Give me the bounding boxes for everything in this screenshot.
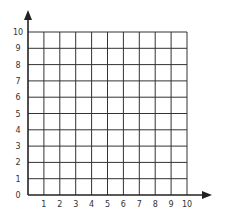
y-axis-arrow-icon [24, 10, 32, 20]
x-axis-label: 1 [41, 200, 46, 209]
y-axis-label: 4 [15, 126, 20, 135]
y-axis-label: 3 [15, 142, 20, 151]
grid-lines [28, 32, 187, 195]
x-axis-arrow-icon [202, 191, 212, 199]
y-axis-label: 5 [15, 110, 20, 119]
axes [24, 10, 212, 199]
x-axis-label: 8 [153, 200, 158, 209]
x-axis-label: 7 [137, 200, 142, 209]
y-axis-label: 1 [15, 175, 20, 184]
y-axis-label: 2 [15, 158, 20, 167]
x-axis-label: 5 [105, 200, 110, 209]
x-axis-label: 2 [57, 200, 62, 209]
x-axis-label: 4 [89, 200, 94, 209]
x-axis-label: 10 [182, 200, 192, 209]
coordinate-grid: 12345678910 12345678910 0 [0, 0, 225, 221]
y-axis-labels: 12345678910 [13, 28, 23, 184]
y-axis-label: 8 [15, 61, 20, 70]
x-axis-label: 9 [169, 200, 174, 209]
y-axis-label: 10 [13, 28, 23, 37]
x-axis-labels: 12345678910 [41, 200, 192, 209]
y-axis-label: 9 [15, 44, 20, 53]
x-axis-label: 3 [73, 200, 78, 209]
origin-label: 0 [15, 191, 20, 200]
y-axis-label: 7 [15, 77, 20, 86]
y-axis-label: 6 [15, 93, 20, 102]
x-axis-label: 6 [121, 200, 126, 209]
